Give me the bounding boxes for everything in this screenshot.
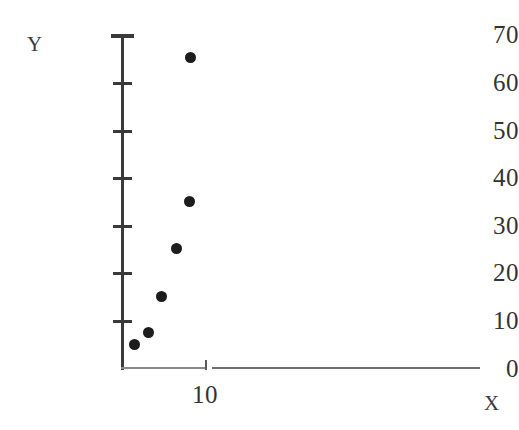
y-axis-title: Y (27, 34, 42, 55)
y-tick-mark-50 (113, 130, 132, 133)
x-axis-title: X (484, 393, 499, 414)
y-tick-label-60: 60 (418, 70, 519, 95)
y-tick-mark-40 (113, 177, 132, 180)
x-tick-label-10: 10 (192, 382, 218, 407)
y-tick-label-0: 0 (418, 356, 519, 381)
scatter-plot-figure: 70 60 50 40 30 20 10 0 10 Y X (0, 0, 519, 430)
y-tick-mark-10 (113, 320, 132, 323)
x-tick-mark-10 (205, 360, 207, 370)
y-tick-mark-30 (113, 225, 132, 228)
y-tick-mark-60 (113, 82, 132, 85)
y-tick-label-20: 20 (418, 260, 519, 285)
y-tick-mark-20 (113, 272, 132, 275)
y-tick-label-30: 30 (418, 213, 519, 238)
data-point (184, 196, 195, 207)
y-tick-label-40: 40 (418, 165, 519, 190)
y-tick-mark-70 (111, 34, 134, 38)
data-point (156, 291, 167, 302)
y-tick-label-70: 70 (418, 22, 519, 47)
data-point (185, 52, 196, 63)
data-point (129, 339, 140, 350)
y-tick-label-10: 10 (418, 308, 519, 333)
x-axis-line-inner (121, 367, 205, 369)
data-point (171, 243, 182, 254)
y-tick-label-50: 50 (418, 118, 519, 143)
data-point (143, 327, 154, 338)
